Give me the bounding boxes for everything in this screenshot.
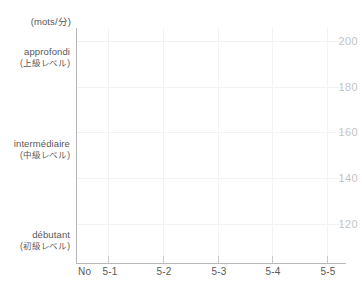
y-axis-tick-label-160: 160 (288, 126, 362, 138)
x-axis-line (76, 263, 346, 264)
level-label-fr: approfondi (0, 46, 70, 58)
level-annotation-intermediate: intermédiaire (中級レベル) (0, 138, 74, 161)
level-label-fr: intermédiaire (0, 138, 70, 150)
level-label-jp: (上級レベル) (0, 58, 70, 70)
level-annotation-advanced: approfondi (上級レベル) (0, 46, 74, 69)
gridline-vertical (272, 28, 273, 263)
x-axis-tick (218, 256, 219, 263)
gridline-vertical (108, 28, 109, 263)
reading-speed-chart: (mots/分) 200 180 160 140 120 approfondi … (0, 0, 362, 293)
level-label-jp: (中級レベル) (0, 150, 70, 162)
x-axis-tick (163, 256, 164, 263)
gridline-vertical (163, 28, 164, 263)
x-axis-tick-label-5-4: 5-4 (253, 266, 293, 277)
y-axis-tick-label-140: 140 (288, 172, 362, 184)
level-label-fr: débutant (0, 229, 70, 241)
x-axis-tick (272, 256, 273, 263)
y-axis-tick-label-180: 180 (288, 81, 362, 93)
x-axis-tick-label-5-1: 5-1 (90, 266, 130, 277)
level-label-jp: (初級レベル) (0, 241, 70, 253)
x-axis-tick-label-5-3: 5-3 (199, 266, 239, 277)
y-axis-tick-label-200: 200 (288, 35, 362, 47)
x-axis-tick-label-5-2: 5-2 (144, 266, 184, 277)
x-axis-tick (108, 256, 109, 263)
gridline-vertical (218, 28, 219, 263)
y-axis-unit-caption: (mots/分) (0, 14, 76, 28)
y-axis-tick-label-120: 120 (288, 218, 362, 230)
level-annotation-beginner: débutant (初級レベル) (0, 229, 74, 252)
x-axis-tick-label-5-5: 5-5 (308, 266, 348, 277)
y-axis-line (76, 28, 77, 264)
x-axis-tick (327, 256, 328, 263)
